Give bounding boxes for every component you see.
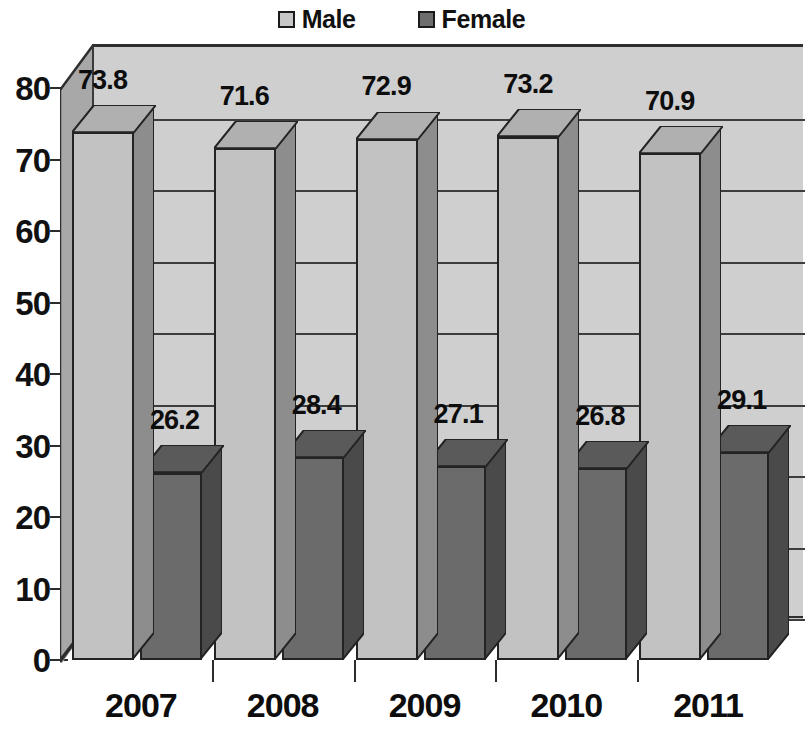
data-label-female-2011: 29.1: [717, 387, 766, 414]
data-label-male-2011: 70.9: [645, 88, 694, 115]
bar-top-face: [497, 109, 581, 139]
bar-top-face: [72, 105, 156, 135]
bar-side-face: [132, 105, 154, 660]
legend-entry-female[interactable]: Female: [418, 7, 526, 32]
legend-swatch-female-icon: [418, 11, 435, 28]
x-axis-label-2010: 2010: [530, 688, 602, 722]
x-axis-label-2008: 2008: [247, 688, 319, 722]
y-axis-tick-label: 70: [0, 143, 50, 176]
bar-side-face: [416, 112, 438, 661]
bar-front-face: [356, 139, 418, 660]
y-axis-tick-label: 20: [0, 501, 50, 534]
bar-group: 73.826.271.628.472.927.173.226.870.929.1: [60, 44, 803, 660]
bar-side-face: [484, 439, 506, 660]
data-label-male-2007: 73.8: [78, 67, 127, 94]
plot-area: 73.826.271.628.472.927.173.226.870.929.1: [60, 44, 803, 660]
bar-front-face: [497, 137, 559, 660]
bar-front-face: [639, 153, 701, 660]
legend-entry-male[interactable]: Male: [278, 7, 356, 32]
data-label-male-2010: 73.2: [503, 71, 552, 98]
y-axis-tick-label: 30: [0, 429, 50, 462]
data-label-female-2008: 28.4: [292, 392, 341, 419]
x-axis-tick-mark: [212, 660, 214, 682]
bar-side-face: [557, 109, 579, 660]
data-label-female-2009: 27.1: [434, 401, 483, 428]
bar-top-face: [639, 126, 723, 156]
chart-legend: Male Female: [0, 2, 803, 36]
bar-front-face: [72, 132, 134, 660]
data-label-female-2010: 26.8: [575, 403, 624, 430]
bar-front-face: [214, 148, 276, 660]
bar-side-face: [200, 445, 222, 660]
legend-label-female: Female: [442, 7, 526, 32]
x-axis-label-2011: 2011: [673, 688, 743, 722]
x-axis-tick-mark: [495, 660, 497, 682]
bar-male-2011[interactable]: [639, 153, 701, 660]
bar-side-face: [625, 441, 647, 660]
x-axis-tick-mark: [637, 660, 639, 682]
x-axis-label-2007: 2007: [105, 688, 177, 722]
bar-male-2008[interactable]: [214, 148, 276, 660]
legend-label-male: Male: [302, 7, 356, 32]
bar-top-face: [356, 112, 440, 142]
bar-side-face: [342, 430, 364, 660]
y-axis-tick-label: 40: [0, 358, 50, 391]
y-axis-tick-label: 60: [0, 215, 50, 248]
x-axis-label-2009: 2009: [389, 688, 461, 722]
bar-top-face: [214, 121, 298, 151]
bar-side-face: [767, 425, 789, 660]
legend-swatch-male-icon: [278, 11, 295, 28]
bar-male-2009[interactable]: [356, 139, 418, 660]
data-label-male-2009: 72.9: [362, 73, 411, 100]
y-axis-tick-label: 80: [0, 72, 50, 105]
data-label-male-2008: 71.6: [220, 83, 269, 110]
bar-male-2007[interactable]: [72, 132, 134, 660]
bar-male-2010[interactable]: [497, 137, 559, 660]
x-axis-tick-mark: [354, 660, 356, 682]
data-label-female-2007: 26.2: [150, 407, 199, 434]
y-axis-tick-label: 10: [0, 572, 50, 605]
y-axis-tick-label: 50: [0, 286, 50, 319]
x-axis: 20072008200920102011: [0, 660, 803, 752]
